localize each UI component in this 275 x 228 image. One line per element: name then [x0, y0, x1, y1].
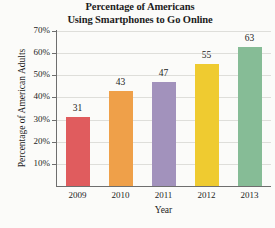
- x-tick-label: 2011: [144, 190, 184, 200]
- bar-value-label: 31: [61, 103, 95, 113]
- x-axis-title: Year: [56, 205, 271, 215]
- bar-2009: [66, 117, 90, 186]
- bar-2010: [109, 91, 133, 186]
- bar-value-label: 47: [147, 68, 181, 78]
- x-axis-line: [56, 186, 271, 187]
- x-tick-label: 2009: [58, 190, 98, 200]
- bar-value-label: 43: [104, 77, 138, 87]
- y-tick-label: 40%: [20, 91, 50, 101]
- y-tick-label: 30%: [20, 114, 50, 124]
- bar-value-label: 63: [233, 33, 267, 43]
- y-tick-label: 50%: [20, 69, 50, 79]
- x-tick-label: 2012: [187, 190, 227, 200]
- chart-title: Percentage of Americans Using Smartphone…: [40, 1, 240, 26]
- y-tick-label: 70%: [20, 25, 50, 35]
- x-tick-label: 2010: [101, 190, 141, 200]
- bar-2013: [238, 47, 262, 187]
- bar-2012: [195, 64, 219, 186]
- y-tick-label: 10%: [20, 158, 50, 168]
- chart-title-line-2: Using Smartphones to Go Online: [40, 14, 240, 27]
- bar-2011: [152, 82, 176, 186]
- chart-title-line-1: Percentage of Americans: [40, 1, 240, 14]
- y-tick-label: 20%: [20, 136, 50, 146]
- y-tick-label: 60%: [20, 47, 50, 57]
- bar-chart-figure: Percentage of Americans Using Smartphone…: [0, 0, 275, 228]
- bar-value-label: 55: [190, 50, 224, 60]
- x-tick-label: 2013: [230, 190, 270, 200]
